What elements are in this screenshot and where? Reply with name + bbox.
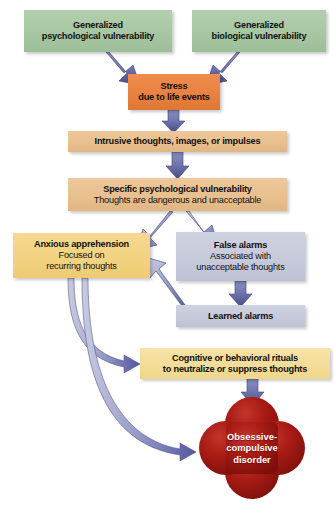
arrow-stress-to-intrusive	[162, 110, 185, 133]
arrow-intrusive-to-specific	[166, 152, 189, 179]
ocd-model-diagram: Generalized psychological vulnerability …	[0, 0, 334, 513]
ocd-label-line3: disorder	[233, 454, 271, 465]
node-subtitle-line1: Associated with	[210, 251, 271, 262]
node-subtitle: biological vulnerability	[212, 31, 307, 42]
node-title: False alarms	[214, 240, 267, 251]
node-title: Generalized	[73, 20, 123, 31]
node-learned-alarms: Learned alarms	[176, 305, 305, 327]
node-title: Anxious apprehension	[34, 239, 129, 250]
node-title: Generalized	[234, 20, 284, 31]
arrow-falsealarms-to-learnedalarms	[229, 281, 252, 307]
node-subtitle: psychological vulnerability	[42, 31, 155, 42]
ocd-label-line2: compulsive	[226, 442, 278, 453]
node-specific-psychological-vulnerability: Specific psychological vulnerability Tho…	[68, 178, 287, 211]
node-anxious-apprehension: Anxious apprehension Focused on recurrin…	[13, 233, 150, 278]
node-stress: Stress due to life events	[128, 74, 220, 110]
node-subtitle: due to life events	[138, 92, 209, 103]
ocd-label: Obsessive- compulsive disorder	[196, 394, 308, 502]
node-subtitle-line1: Focused on	[58, 250, 104, 261]
node-title: Specific psychological vulnerability	[103, 184, 252, 195]
node-cognitive-behavioral-rituals: Cognitive or behavioral rituals to neutr…	[140, 348, 330, 379]
node-subtitle-line2: recurring thoughts	[46, 261, 116, 272]
node-intrusive-thoughts: Intrusive thoughts, images, or impulses	[68, 131, 287, 152]
node-title: Intrusive thoughts, images, or impulses	[95, 136, 261, 147]
node-title: Stress	[161, 81, 188, 92]
node-subtitle: Thoughts are dangerous and unacceptable	[94, 195, 261, 206]
node-title-line2: to neutralize or suppress thoughts	[163, 364, 307, 375]
node-obsessive-compulsive-disorder: Obsessive- compulsive disorder	[196, 394, 308, 502]
node-subtitle-line2: unacceptable thoughts	[196, 262, 284, 273]
arrow-anxious-to-rituals	[68, 278, 140, 373]
node-title-line1: Cognitive or behavioral rituals	[172, 353, 298, 364]
node-title: Learned alarms	[208, 311, 273, 322]
ocd-label-line1: Obsessive-	[227, 431, 277, 442]
node-false-alarms: False alarms Associated with unacceptabl…	[176, 232, 305, 281]
node-generalized-biological-vulnerability: Generalized biological vulnerability	[192, 10, 326, 52]
node-generalized-psychological-vulnerability: Generalized psychological vulnerability	[24, 10, 172, 52]
